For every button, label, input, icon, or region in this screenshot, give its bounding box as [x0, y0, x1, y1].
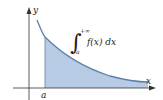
y-axis-label: y [32, 5, 39, 15]
improper-integral-diagram: y x a ∫ +∞ a f(x) dx [0, 0, 163, 100]
lower-limit-label: a [41, 90, 46, 100]
integral-upper-limit: +∞ [80, 27, 90, 34]
integral-lower-limit: a [76, 48, 80, 55]
x-axis-label: x [146, 76, 151, 86]
integrand: f(x) dx [86, 37, 116, 47]
x-axis-arrow-icon [149, 86, 156, 91]
y-axis-arrow-icon [27, 7, 32, 14]
